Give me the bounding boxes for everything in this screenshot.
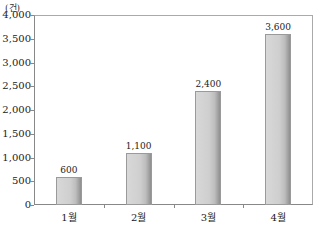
bar-3 [195,91,221,205]
x-tick-mark [174,205,175,208]
y-tick-label: 1,000 [0,153,31,163]
x-tick-mark [104,205,105,208]
y-tick-mark [30,86,34,87]
x-tick-label: 4월 [243,209,313,224]
bar-2 [126,153,152,205]
value-label: 3,600 [258,22,298,32]
y-tick-label: 4,000 [0,10,31,20]
y-tick-label: 500 [0,176,31,186]
y-tick-mark [30,63,34,64]
value-label: 2,400 [188,79,228,89]
y-tick-mark [30,134,34,135]
x-tick-label: 2월 [104,209,174,224]
y-tick-mark [30,15,34,16]
y-tick-label: 2,000 [0,105,31,115]
y-tick-mark [30,205,34,206]
value-label: 1,100 [119,141,159,151]
value-label: 600 [49,165,89,175]
x-tick-mark [243,205,244,208]
x-tick-label: 3월 [173,209,243,224]
y-tick-mark [30,181,34,182]
y-tick-label: 1,500 [0,129,31,139]
y-tick-label: 2,500 [0,81,31,91]
y-tick-label: 3,500 [0,34,31,44]
y-tick-mark [30,110,34,111]
y-tick-label: 0 [0,200,31,210]
bar-1 [56,177,82,206]
bar-4 [265,34,291,205]
x-tick-label: 1월 [34,209,104,224]
bar-chart: (건) 05001,0001,5002,0002,5003,0003,5004,… [0,0,322,225]
y-tick-mark [30,158,34,159]
y-tick-mark [30,39,34,40]
y-tick-label: 3,000 [0,58,31,68]
